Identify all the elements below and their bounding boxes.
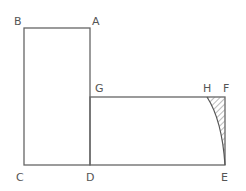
label-h: H xyxy=(203,83,211,94)
label-a: A xyxy=(92,16,100,27)
label-g: G xyxy=(95,83,104,94)
label-b: B xyxy=(14,16,22,27)
geometry-diagram: B A G H F C D E xyxy=(0,0,246,191)
hatched-region xyxy=(207,97,225,165)
rectangle-abcd xyxy=(24,28,90,165)
diagram-lines xyxy=(0,0,246,191)
label-d: D xyxy=(86,172,94,183)
label-e: E xyxy=(221,172,228,183)
label-f: F xyxy=(223,83,229,94)
label-c: C xyxy=(16,172,24,183)
rectangle-gfed xyxy=(90,97,225,165)
